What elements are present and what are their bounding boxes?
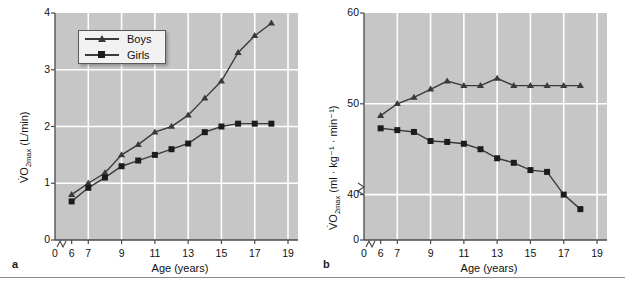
- y-axis-title-sub: 2max: [24, 149, 33, 167]
- data-point-square: [494, 155, 500, 161]
- y-tick-label: 3: [22, 63, 50, 75]
- y-tick-label: 0: [22, 233, 50, 245]
- data-point-square: [428, 138, 434, 144]
- data-point-square: [478, 146, 484, 152]
- data-point-square: [185, 141, 191, 147]
- y-tick-label: 1: [22, 176, 50, 188]
- data-point-square: [102, 175, 108, 181]
- x-tick-label: 11: [453, 247, 475, 259]
- data-point-square: [268, 121, 274, 127]
- y-axis-title-base: V̇O: [327, 214, 339, 230]
- data-point-square: [411, 129, 417, 135]
- data-point-square: [69, 198, 75, 204]
- plot-area-background: [364, 13, 607, 240]
- y-tick-label: 40: [331, 188, 359, 200]
- y-tick-label: 0: [331, 233, 359, 245]
- x-tick-label: 9: [111, 247, 133, 259]
- x-tick-label: 7: [77, 247, 99, 259]
- legend-marker-square-icon: [85, 48, 119, 62]
- legend-label-girls: Girls: [127, 49, 150, 61]
- panel-label-b: b: [323, 258, 330, 270]
- data-point-square: [511, 160, 517, 166]
- x-tick-label: 13: [177, 247, 199, 259]
- x-tick-label: 9: [420, 247, 442, 259]
- data-point-square: [444, 139, 450, 145]
- x-tick-label: 15: [210, 247, 232, 259]
- y-tick-label: 50: [331, 97, 359, 109]
- data-point-square: [394, 127, 400, 133]
- x-tick-label: 11: [144, 247, 166, 259]
- data-point-square: [577, 206, 583, 212]
- legend-label-boys: Boys: [127, 33, 151, 45]
- y-tick-label: 4: [22, 6, 50, 18]
- y-axis-title-unit: (ml · kg⁻¹ · min⁻¹): [327, 106, 339, 196]
- x-tick-label: 7: [386, 247, 408, 259]
- panel-b: V̇O2max (ml · kg⁻¹ · min⁻¹) Age (years) …: [313, 0, 625, 285]
- figure-container: V̇O2max (L/min) Age (years) 01234 067911…: [0, 0, 625, 285]
- data-point-square: [527, 167, 533, 173]
- x-tick-label: 17: [244, 247, 266, 259]
- x-axis-title: Age (years): [120, 262, 240, 274]
- data-point-square: [561, 192, 567, 198]
- data-point-square: [544, 169, 550, 175]
- legend: Boys Girls: [78, 30, 166, 64]
- y-tick-label: 60: [331, 6, 359, 18]
- data-point-square: [169, 146, 175, 152]
- data-point-square: [461, 141, 467, 147]
- legend-item-boys: Boys: [79, 31, 165, 47]
- panel-a: V̇O2max (L/min) Age (years) 01234 067911…: [0, 0, 312, 285]
- legend-item-girls: Girls: [79, 47, 165, 63]
- y-axis-title: V̇O2max (ml · kg⁻¹ · min⁻¹): [327, 106, 342, 230]
- data-point-square: [85, 185, 91, 191]
- x-tick-label: 15: [519, 247, 541, 259]
- x-axis-title: Age (years): [429, 262, 549, 274]
- y-tick-label: 2: [22, 120, 50, 132]
- data-point-square: [152, 152, 158, 158]
- legend-marker-triangle-icon: [85, 32, 119, 46]
- x-tick-label: 19: [586, 247, 608, 259]
- panel-label-a: a: [12, 258, 18, 270]
- figure-bottom-rule: [0, 277, 625, 278]
- data-point-square: [218, 124, 224, 130]
- panel-b-plot: [313, 0, 625, 285]
- data-point-square: [202, 129, 208, 135]
- data-point-square: [252, 121, 258, 127]
- data-point-square: [135, 158, 141, 164]
- x-tick-label: 17: [553, 247, 575, 259]
- x-tick-label: 19: [277, 247, 299, 259]
- data-point-square: [235, 121, 241, 127]
- x-tick-label: 13: [486, 247, 508, 259]
- data-point-square: [119, 163, 125, 169]
- data-point-square: [378, 125, 384, 131]
